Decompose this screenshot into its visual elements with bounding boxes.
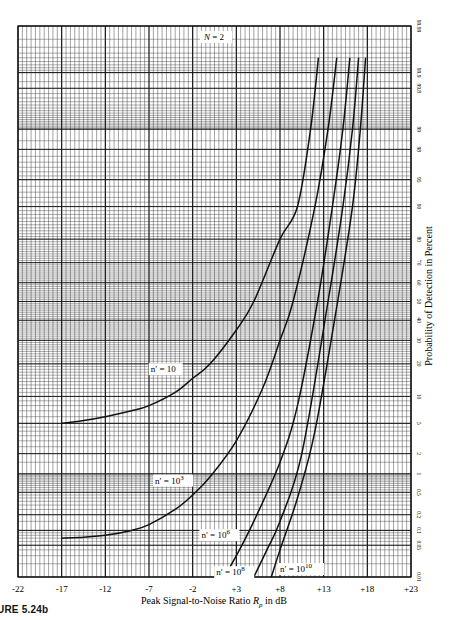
- curve-label: n′ = 108: [216, 565, 245, 577]
- curve-label: n′ = 10: [151, 364, 177, 374]
- x-axis-title: Peak Signal-to-Noise Ratio Rp in dB: [141, 595, 287, 609]
- y-tick-label: 40: [416, 318, 422, 324]
- x-tick-label: +13: [317, 584, 332, 594]
- y-tick-label: 60: [416, 280, 422, 286]
- y-tick-label: 0.2: [416, 511, 422, 518]
- x-tick-label: -17: [56, 584, 68, 594]
- curve-label: n′ = 103: [155, 474, 184, 486]
- y-tick-label: 10: [416, 394, 422, 400]
- y-tick-label: 80: [416, 236, 422, 242]
- detection-curves: [62, 58, 366, 577]
- y-tick-label: 99.8: [416, 83, 422, 93]
- y-tick-label: 5: [416, 422, 422, 425]
- y-tick-label: 0.01: [416, 572, 422, 582]
- x-tick-label: -7: [145, 584, 153, 594]
- x-axis-ticks: -22-17-12-7-2+3+8+13+18+23: [12, 584, 419, 594]
- curve-label: n′ = 106: [201, 528, 230, 540]
- y-tick-label: 20: [416, 361, 422, 367]
- y-tick-label: 70: [416, 260, 422, 266]
- figure-caption: URE 5.24b: [0, 604, 48, 615]
- x-tick-label: +18: [360, 584, 375, 594]
- y-tick-label: 99.99: [416, 20, 422, 33]
- y-tick-label: 50: [416, 299, 422, 305]
- x-tick-label: +3: [232, 584, 242, 594]
- curve-n-2: [224, 58, 350, 577]
- y-tick-label: 0.05: [416, 540, 422, 550]
- y-tick-label: 99.9: [416, 68, 422, 78]
- y-tick-label: 99: [416, 126, 422, 132]
- y-tick-label: 1: [416, 472, 422, 475]
- n-equals-2-annotation: N = 2: [203, 32, 224, 42]
- y-tick-label: 2: [416, 452, 422, 455]
- detection-probability-chart: n′ = 10n′ = 103n′ = 106n′ = 108n′ = 1010…: [0, 0, 451, 620]
- x-tick-label: +8: [275, 584, 285, 594]
- x-tick-label: -12: [99, 584, 111, 594]
- x-tick-label: -2: [189, 584, 197, 594]
- y-tick-label: 90: [416, 204, 422, 210]
- y-tick-label: 0.1: [416, 527, 422, 534]
- y-tick-label: 95: [416, 177, 422, 183]
- x-tick-label: -22: [12, 584, 24, 594]
- y-axis-title: Probability of Detection in Percent: [423, 226, 434, 366]
- y-axis-ticks: 0.010.050.10.20.512510203040506070809095…: [416, 20, 422, 582]
- chart-grid: [18, 26, 411, 577]
- x-tick-label: +23: [404, 584, 419, 594]
- y-tick-label: 30: [416, 338, 422, 344]
- y-tick-label: 98: [416, 147, 422, 153]
- y-tick-label: 0.5: [416, 489, 422, 496]
